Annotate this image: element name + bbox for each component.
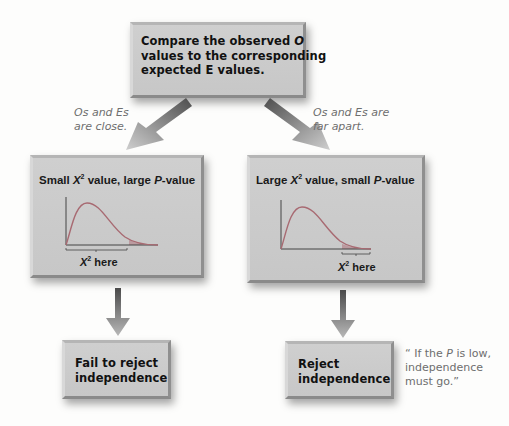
left-title-p: P	[154, 174, 162, 186]
quote-line1: “ If the P is low,	[405, 347, 491, 361]
right-branch-note: Os and Es are far apart.	[313, 106, 389, 134]
left-xlabel-text: here	[91, 256, 117, 268]
right-title-prefix: Large	[256, 174, 291, 186]
reject-line1: Reject	[298, 357, 390, 372]
quote-line1-prefix: “ If the	[405, 347, 446, 360]
top-box-text: Compare the observed O values to the cor…	[141, 34, 326, 78]
quote-line3: must go.”	[405, 375, 491, 389]
right-chi-square-chart	[278, 198, 378, 260]
left-xlabel: X2 here	[80, 255, 118, 268]
left-chi-square-chart	[63, 195, 163, 253]
right-xlabel: X2 here	[338, 260, 376, 273]
fail-to-reject-text: Fail to reject independence	[75, 356, 167, 385]
right-curve	[281, 207, 371, 249]
arrow-down-right	[329, 288, 357, 340]
right-note-line2: far apart.	[313, 120, 389, 134]
left-note-line2: are close.	[74, 120, 129, 134]
reject-text: Reject independence	[298, 357, 390, 386]
left-curve	[66, 203, 158, 245]
quote-line2: independence	[405, 361, 491, 375]
top-box-line1: Compare the observed	[141, 34, 294, 48]
right-title-mid: value, small	[302, 174, 374, 186]
left-brace	[66, 248, 127, 252]
right-panel-title: Large X2 value, small P-value	[256, 173, 422, 186]
fail-to-reject-box: Fail to reject independence	[62, 340, 171, 399]
arrow-down-left	[104, 286, 132, 338]
quote-var-p: P	[446, 347, 453, 360]
left-branch-note: Os and Es are close.	[74, 106, 129, 134]
right-brace	[342, 252, 370, 256]
left-title-prefix: Small	[39, 174, 73, 186]
left-result-panel: Small X2 value, large P-value X2 here	[30, 155, 204, 278]
reject-box: Reject independence	[285, 341, 394, 399]
quote-line1-suffix: is low,	[453, 347, 491, 360]
right-xlabel-text: here	[349, 261, 375, 273]
fail-line1: Fail to reject	[75, 356, 167, 371]
reject-line2: independence	[298, 372, 390, 387]
top-box: Compare the observed O values to the cor…	[130, 22, 306, 98]
right-note-line1: Os and Es are	[313, 106, 389, 120]
top-box-var-o: O	[294, 34, 304, 48]
right-title-suffix: -value	[381, 174, 414, 186]
arrow-left-diagonal	[120, 94, 200, 156]
left-title-mid: value, large	[84, 174, 154, 186]
quote-note: “ If the P is low, independence must go.…	[405, 347, 491, 389]
left-title-var: X	[73, 174, 81, 186]
top-box-line3: expected E values.	[141, 63, 326, 78]
fail-line2: independence	[75, 371, 167, 386]
top-box-line2: values to the corresponding	[141, 49, 326, 64]
left-note-line1: Os and Es	[74, 106, 129, 120]
right-result-panel: Large X2 value, small P-value X2 here	[247, 155, 425, 283]
left-title-suffix: -value	[162, 174, 195, 186]
left-panel-title: Small X2 value, large P-value	[39, 173, 201, 186]
